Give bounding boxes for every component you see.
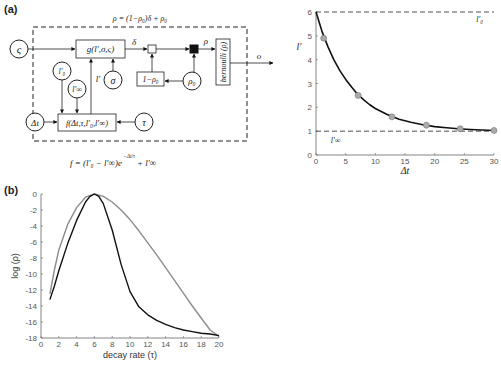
- annotation: l′₀: [476, 15, 483, 24]
- y-tick-label: 5: [308, 32, 313, 41]
- y-tick-label: -6: [30, 238, 38, 247]
- y-tick-label: -2: [30, 206, 38, 215]
- series-line-gray: [50, 194, 219, 336]
- x-tick-label: 20: [215, 340, 224, 349]
- node-tau-label: τ: [142, 117, 146, 128]
- node-linf-label: l′∞: [72, 85, 82, 94]
- annotation: l′∞: [331, 136, 341, 145]
- y-tick-label: 4: [308, 56, 313, 65]
- x-axis-label: decay rate (τ): [103, 350, 157, 360]
- panel-a-label: (a): [4, 3, 18, 15]
- data-point-marker: [389, 114, 395, 120]
- edge-lprime-label: l′: [96, 74, 102, 84]
- sum-node: [148, 45, 156, 53]
- edge-delta-label: δ: [132, 37, 137, 47]
- edge-rho-label: ρ: [203, 36, 209, 46]
- bottom-equation-tail: + l′∞: [137, 158, 156, 168]
- y-tick-label: 1: [308, 127, 313, 136]
- series-line-black: [50, 194, 219, 336]
- y-tick-label: 0: [33, 190, 38, 199]
- y-tick-label: -12: [25, 286, 37, 295]
- data-point-marker: [491, 127, 497, 133]
- y-tick-label: -16: [25, 318, 37, 327]
- y-tick-label: -14: [25, 302, 37, 311]
- y-tick-label: -18: [25, 334, 37, 343]
- node-l0-label: l′₀: [59, 67, 66, 76]
- data-point-marker: [457, 126, 463, 132]
- x-tick-label: 5: [343, 157, 348, 166]
- y-tick-label: -4: [30, 222, 38, 231]
- log-likelihood-chart: 024681012141618200-2-4-6-8-10-12-14-16-1…: [10, 190, 224, 360]
- y-tick-label: 0: [308, 151, 313, 160]
- x-tick-label: 10: [371, 157, 380, 166]
- node-rho0-label: ρ₀: [187, 76, 195, 86]
- y-tick-label: -8: [30, 254, 38, 263]
- product-node: [190, 45, 198, 53]
- y-axis-label: log (ρ): [10, 253, 20, 279]
- x-tick-label: 14: [161, 340, 170, 349]
- x-tick-label: 10: [126, 340, 135, 349]
- decay-curve-chart: 0510152025300123456l′₀l′∞Δtl′: [297, 8, 499, 176]
- data-point-marker: [355, 92, 361, 98]
- bottom-equation-exponent: −Δt/τ: [123, 153, 136, 159]
- x-tick-label: 4: [74, 340, 79, 349]
- box-g-label: g(l′,σ,ς): [87, 44, 115, 54]
- x-tick-label: 8: [110, 340, 115, 349]
- x-tick-label: 6: [92, 340, 97, 349]
- x-tick-label: 12: [143, 340, 152, 349]
- edge-output-label: o: [257, 51, 262, 61]
- y-tick-label: -10: [25, 270, 37, 279]
- y-tick-label: 2: [308, 103, 313, 112]
- y-axis-label: l′: [297, 41, 303, 52]
- x-tick-label: 25: [460, 157, 469, 166]
- y-tick-label: 3: [308, 80, 313, 89]
- x-tick-label: 20: [430, 157, 439, 166]
- data-point-marker: [423, 122, 429, 128]
- top-equation: ρ = (1−ρ₀)δ + ρ₀: [112, 14, 168, 23]
- box-bernoulli-label: bernoulli (ρ): [219, 41, 228, 82]
- panel-b-label: (b): [4, 184, 18, 196]
- data-point-marker: [321, 35, 327, 41]
- x-tick-label: 16: [179, 340, 188, 349]
- y-tick-label: 6: [308, 8, 313, 17]
- bottom-equation-main: f = (l′₀ − l′∞)e: [70, 158, 122, 168]
- figure-canvas: (a) ρ = (1−ρ₀)δ + ρ₀ ς g(l′,σ,ς) δ ρ ber…: [0, 0, 501, 369]
- x-tick-label: 18: [197, 340, 206, 349]
- series-line-curve: [316, 12, 494, 131]
- box-one-minus-rho0-label: 1−ρ₀: [142, 75, 158, 84]
- node-zeta-label: ς: [17, 43, 22, 55]
- x-tick-label: 30: [490, 157, 499, 166]
- box-f-label: f(Δt,τ,l′₀,l′∞): [66, 118, 108, 128]
- x-tick-label: 0: [39, 340, 44, 349]
- x-axis-label: Δt: [400, 165, 410, 176]
- x-tick-label: 0: [314, 157, 319, 166]
- graphical-model-diagram: ρ = (1−ρ₀)δ + ρ₀ ς g(l′,σ,ς) δ ρ bernoul…: [10, 14, 273, 168]
- x-tick-label: 2: [57, 340, 62, 349]
- node-dt-label: Δt: [30, 118, 39, 128]
